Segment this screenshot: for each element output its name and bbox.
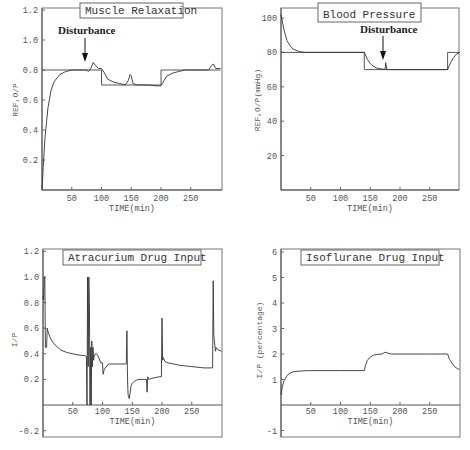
chart-title: Blood Pressure — [323, 9, 415, 21]
y-axis-label: REF,O/P — [11, 83, 20, 117]
x-tick-label: 100 — [333, 407, 348, 417]
y-tick-label: 0.8 — [23, 66, 38, 76]
x-tick-label: 150 — [363, 407, 378, 417]
y-tick-label: 3 — [272, 325, 277, 335]
panel-isoflurane: 50100150200250-1123456TIME(min)I/P (perc… — [255, 248, 460, 437]
y-tick-label: 0.4 — [23, 126, 38, 136]
y-tick-label: 40 — [267, 117, 277, 127]
x-axis-label: TIME(min) — [109, 204, 155, 214]
y-axis-label: REF,O/P(mmHg) — [253, 69, 262, 131]
x-tick-label: 200 — [392, 194, 407, 204]
y-tick-label: 5 — [272, 274, 277, 284]
output-line — [281, 352, 460, 395]
x-tick-label: 250 — [422, 407, 437, 417]
arrow-down-icon — [82, 53, 88, 62]
x-tick-label: 250 — [422, 194, 437, 204]
y-tick-label: 1.2 — [23, 6, 38, 16]
x-tick-label: 50 — [68, 407, 78, 417]
panel-bp: 5010015020025020406080100TIME(min)REF,O/… — [253, 3, 460, 214]
x-tick-label: 200 — [392, 407, 407, 417]
output-line — [42, 63, 221, 191]
panel-muscle: 501001502002500.20.40.60.81.01.2TIME(min… — [11, 3, 222, 214]
y-tick-label: 100 — [262, 14, 277, 24]
x-axis-label: TIME(min) — [110, 417, 156, 427]
x-tick-label: 100 — [95, 407, 110, 417]
y-tick-label: 1.0 — [23, 36, 38, 46]
chart-title: Isoflurane Drug Input — [306, 252, 445, 264]
x-tick-label: 250 — [183, 194, 198, 204]
y-axis-label: I/P — [10, 333, 19, 348]
x-axis-label: TIME(min) — [347, 204, 393, 214]
y-tick-label: 0.2 — [23, 156, 38, 166]
y-axis-label: I/P (percentage) — [255, 302, 264, 379]
plot-frame — [281, 8, 459, 190]
y-tick-label: 0.4 — [24, 350, 39, 360]
y-tick-label: 2 — [272, 350, 277, 360]
y-tick-label: 1 — [272, 376, 277, 386]
y-tick-label: 4 — [272, 299, 277, 309]
disturbance-label: Disturbance — [58, 24, 116, 36]
y-tick-label: 6 — [272, 248, 277, 258]
x-tick-label: 250 — [184, 407, 199, 417]
x-tick-label: 150 — [124, 194, 139, 204]
y-tick-label: 0.8 — [24, 299, 39, 309]
x-tick-label: 150 — [363, 194, 378, 204]
x-tick-label: 50 — [306, 407, 316, 417]
figure-canvas: 501001502002500.20.40.60.81.01.2TIME(min… — [0, 0, 470, 450]
y-tick-label: 20 — [267, 152, 277, 162]
x-tick-label: 150 — [125, 407, 140, 417]
x-tick-label: 50 — [67, 194, 77, 204]
x-tick-label: 200 — [153, 194, 168, 204]
x-tick-label: 100 — [94, 194, 109, 204]
x-tick-label: 100 — [333, 194, 348, 204]
disturbance-label: Disturbance — [360, 23, 418, 35]
chart-title: Atracurium Drug Input — [68, 252, 207, 264]
y-tick-label: 1.2 — [24, 247, 39, 257]
y-tick-label: 0.6 — [24, 324, 39, 334]
y-tick-label: 0.6 — [23, 96, 38, 106]
y-tick-label: 0.2 — [24, 375, 39, 385]
x-tick-label: 200 — [154, 407, 169, 417]
x-tick-label: 50 — [306, 194, 316, 204]
x-axis-label: TIME(min) — [348, 417, 394, 427]
y-tick-label: -1 — [267, 427, 277, 437]
chart-title: Muscle Relaxation — [85, 5, 197, 17]
arrow-down-icon — [380, 51, 386, 60]
panel-atracurium: 50100150200250-0.20.20.40.60.81.01.2TIME… — [10, 247, 222, 437]
y-tick-label: 80 — [267, 48, 277, 58]
y-tick-label: 1.0 — [24, 273, 39, 283]
y-tick-label: 60 — [267, 83, 277, 93]
y-tick-label: -0.2 — [19, 427, 39, 437]
reference-line — [281, 52, 460, 69]
output-line — [43, 277, 222, 405]
